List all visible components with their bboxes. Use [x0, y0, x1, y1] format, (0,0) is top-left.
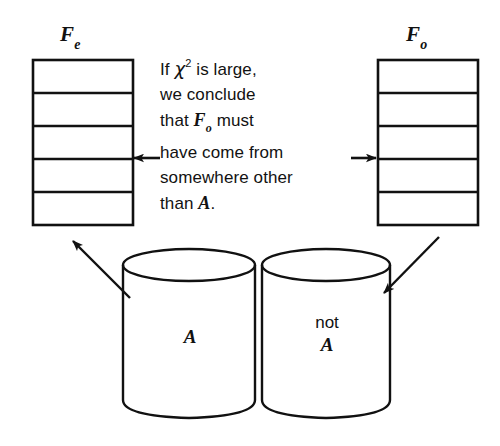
expected-table-label: Fe	[60, 24, 81, 49]
cylinder-a-label: A	[160, 326, 220, 349]
caption-line-3: that Fo must	[160, 108, 360, 140]
caption-line-2: we conclude	[160, 82, 360, 108]
caption-line-1: If χ2 is large,	[160, 52, 360, 82]
caption-line-4: have come from	[160, 140, 360, 166]
cylinder-top-ellipse	[123, 249, 255, 281]
observed-table-label: Fo	[406, 24, 427, 49]
arrow-cylinder-a-to-expected-table	[73, 241, 130, 298]
chi-square-diagram: Fe Fo If χ2 is large, we conclude that F…	[0, 0, 500, 446]
explanatory-caption: If χ2 is large, we conclude that Fo must…	[160, 52, 360, 216]
cylinder-not-a-label-prefix: not	[315, 313, 339, 332]
observed-frequency-table	[378, 60, 478, 225]
table-outline	[378, 60, 478, 225]
cylinder-not-a-label: notA	[292, 312, 362, 357]
cylinder-top-ellipse	[262, 249, 390, 281]
table-outline	[33, 60, 133, 225]
caption-line-6: than A.	[160, 191, 360, 217]
arrow-observed-table-to-cylinder-not-a	[384, 237, 439, 293]
expected-frequency-table	[33, 60, 133, 225]
caption-line-5: somewhere other	[160, 165, 360, 191]
